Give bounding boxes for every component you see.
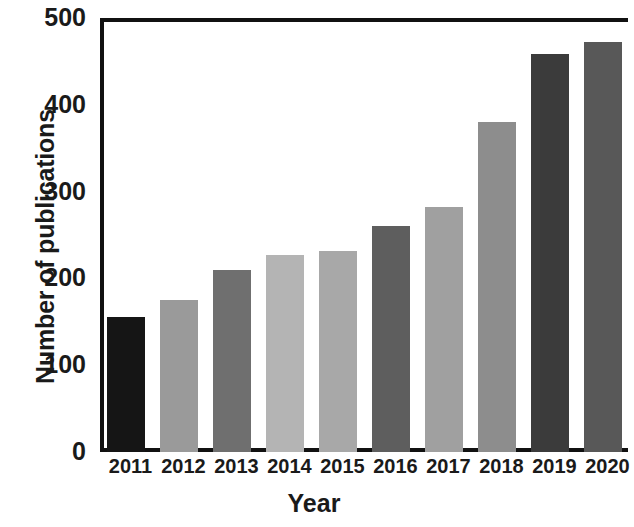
x-tick-label-2012: 2012 — [157, 455, 210, 477]
y-tick-label: 200 — [44, 265, 86, 290]
bar-2020 — [584, 42, 622, 452]
x-tick-label-2013: 2013 — [210, 455, 263, 477]
x-tick-label-2018: 2018 — [475, 455, 528, 477]
bar-2015 — [319, 251, 357, 452]
x-tick-label-2017: 2017 — [422, 455, 475, 477]
y-tick-label: 400 — [44, 92, 86, 117]
bar-2016 — [372, 226, 410, 452]
bar-2019 — [531, 54, 569, 452]
x-tick-label-2015: 2015 — [316, 455, 369, 477]
bar-2017 — [425, 207, 463, 452]
y-tick-label: 300 — [44, 179, 86, 204]
bar-series — [104, 18, 628, 452]
y-tick-label: 500 — [44, 5, 86, 30]
bar-2018 — [478, 122, 516, 452]
x-axis-title: Year — [0, 489, 628, 518]
bar-2011 — [107, 317, 145, 452]
x-tick-label-2019: 2019 — [528, 455, 581, 477]
y-tick-label: 100 — [44, 352, 86, 377]
y-axis-ticks: 0100200300400500 — [0, 0, 100, 452]
x-axis-tick-labels: 2011201220132014201520162017201820192020 — [104, 455, 628, 481]
x-tick-label-2014: 2014 — [263, 455, 316, 477]
x-tick-label-2016: 2016 — [369, 455, 422, 477]
y-tick-label: 0 — [72, 439, 86, 464]
x-tick-label-2020: 2020 — [581, 455, 634, 477]
bar-2013 — [213, 270, 251, 452]
bar-2014 — [266, 255, 304, 452]
bar-2012 — [160, 300, 198, 452]
x-tick-label-2011: 2011 — [104, 455, 157, 477]
